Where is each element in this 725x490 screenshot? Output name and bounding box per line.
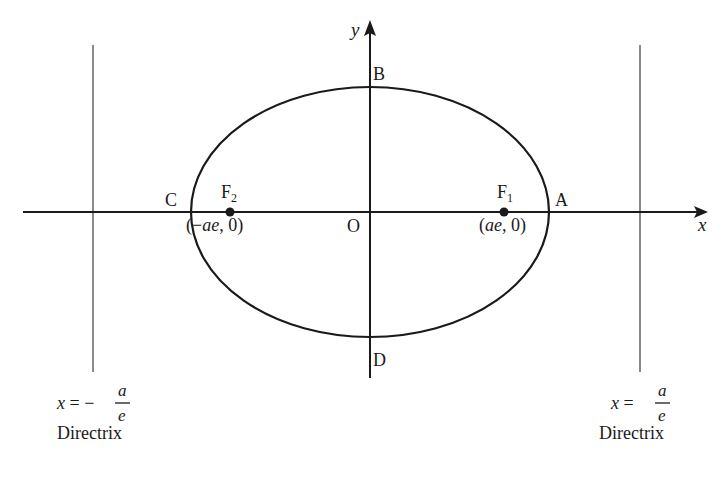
x-axis-label: x xyxy=(697,214,707,235)
vertex-b-label: B xyxy=(373,64,385,84)
focus-f2-coords: (−ae, 0) xyxy=(186,215,243,236)
vertex-d-label: D xyxy=(373,350,386,370)
vertex-a-label: A xyxy=(555,190,568,210)
right-directrix-equation: x = a e Directrix xyxy=(599,381,670,443)
svg-text:x = −: x = − xyxy=(56,393,94,413)
left-directrix-caption: Directrix xyxy=(57,423,122,443)
focus-f1-coords: (ae, 0) xyxy=(479,215,526,236)
left-directrix-equation: x = − a e Directrix xyxy=(56,381,130,443)
ellipse-diagram: y x O A B C D F2 (−ae, 0) F1 (ae, 0) x =… xyxy=(0,0,725,490)
right-directrix-numerator: a xyxy=(658,381,667,400)
svg-text:x =: x = xyxy=(610,393,634,413)
right-directrix-caption: Directrix xyxy=(599,423,664,443)
focus-f1-label: F1 xyxy=(497,182,513,205)
focus-f2-label: F2 xyxy=(221,182,237,205)
vertex-c-label: C xyxy=(165,190,177,210)
y-axis-label: y xyxy=(349,19,360,40)
left-directrix-numerator: a xyxy=(118,381,127,400)
origin-label: O xyxy=(347,216,360,236)
